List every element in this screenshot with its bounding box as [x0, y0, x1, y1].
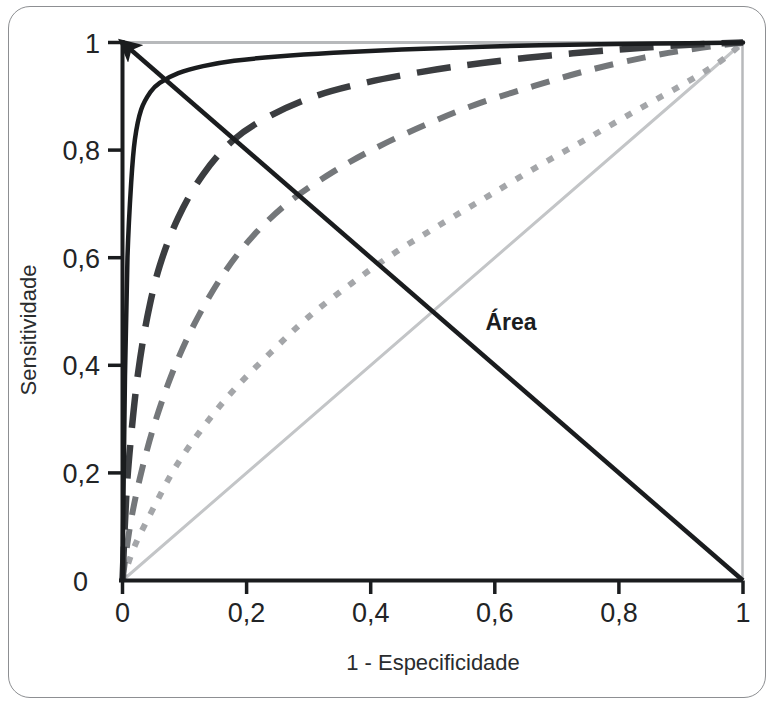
x-tick-label-3: 0,6: [476, 598, 514, 628]
area-annotation-label: Área: [485, 308, 536, 335]
y-tick-label-3: 0,6: [62, 244, 100, 274]
x-tick-label-4: 0,8: [600, 598, 638, 628]
x-tick-label-2: 0,4: [352, 598, 390, 628]
x-axis-title: 1 - Especificidade: [346, 650, 520, 675]
y-axis-title: Sensitividade: [16, 265, 41, 396]
x-tick-label-1: 0,2: [228, 598, 266, 628]
x-tick-label-0: 0: [115, 598, 130, 628]
y-tick-label-5: 1: [85, 29, 100, 59]
roc-chart-svg: 00,20,40,60,81 00,20,40,60,81 Área 1 - E…: [0, 0, 780, 720]
y-tick-labels-group: 00,20,40,60,81: [62, 29, 100, 597]
roc-figure-root: 00,20,40,60,81 00,20,40,60,81 Área 1 - E…: [0, 0, 780, 720]
x-tick-label-5: 1: [735, 598, 750, 628]
y-tick-label-1: 0,2: [62, 459, 100, 489]
y-tick-label-0: 0: [73, 567, 88, 597]
y-tick-label-4: 0,8: [62, 136, 100, 166]
y-tick-label-2: 0,4: [62, 351, 100, 381]
y-ticks-group: [108, 43, 123, 473]
x-ticks-group: [123, 581, 744, 595]
x-tick-labels-group: 00,20,40,60,81: [115, 598, 751, 628]
